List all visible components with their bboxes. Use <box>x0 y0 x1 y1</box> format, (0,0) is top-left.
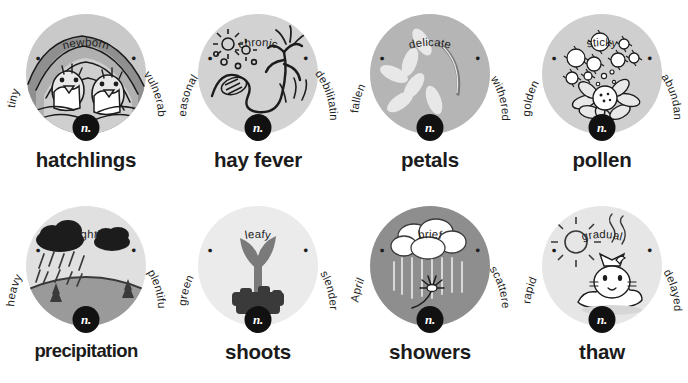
part-of-speech-label: n. <box>253 121 263 134</box>
part-of-speech-label: n. <box>425 313 435 326</box>
adjective-label: golden <box>520 78 541 117</box>
headword-label: shoots <box>172 340 344 364</box>
adjective-label: heavy <box>4 272 24 307</box>
part-of-speech-label: n. <box>253 313 263 326</box>
part-of-speech-badge: n. <box>73 114 100 141</box>
headword-label: showers <box>344 340 516 364</box>
adjective-label: seasonal <box>169 0 200 117</box>
headword-label: thaw <box>516 340 688 364</box>
part-of-speech-label: n. <box>81 313 91 326</box>
dictionary-entry-hatchlings[interactable]: tinynewbornvulnerable•• n. hatchlings <box>0 0 172 192</box>
part-of-speech-label: n. <box>597 121 607 134</box>
headword-label: hatchlings <box>0 148 172 172</box>
dictionary-entry-shoots[interactable]: greenleafyslender•• n. shoots <box>172 192 344 383</box>
dictionary-entry-thaw[interactable]: rapidgradualdelayed•• n. thaw <box>516 192 688 383</box>
headword-label: petals <box>344 148 516 172</box>
part-of-speech-badge: n. <box>73 306 100 333</box>
picture-dictionary-grid: tinynewbornvulnerable•• n. hatchlings <box>0 0 688 383</box>
headword-label: precipitation <box>0 340 172 362</box>
adjective-label: April <box>348 275 366 302</box>
adjective-label: fallen <box>348 82 367 114</box>
part-of-speech-badge: n. <box>589 114 616 141</box>
dictionary-entry-pollen[interactable]: goldenstickyabundant•• n. pollen <box>516 0 688 192</box>
headword-label: hay fever <box>172 148 344 172</box>
part-of-speech-badge: n. <box>417 114 444 141</box>
part-of-speech-label: n. <box>597 313 607 326</box>
dictionary-entry-precipitation[interactable]: heavylightplentiful•• n. precipitation <box>0 192 172 383</box>
part-of-speech-badge: n. <box>417 306 444 333</box>
dictionary-entry-petals[interactable]: fallendelicatewithered•• n. petals <box>344 0 516 192</box>
dictionary-entry-showers[interactable]: Aprilbriefscattered•• n. showers <box>344 192 516 383</box>
part-of-speech-label: n. <box>425 121 435 134</box>
adjective-label: slender <box>318 268 340 310</box>
headword-label: pollen <box>516 148 688 172</box>
part-of-speech-badge: n. <box>245 114 272 141</box>
adjective-label: withered <box>488 73 512 121</box>
part-of-speech-label: n. <box>81 121 91 134</box>
adjective-label: delayed <box>662 267 685 311</box>
part-of-speech-badge: n. <box>245 306 272 333</box>
dictionary-entry-hay-fever[interactable]: seasonalchronicdebilitating•• n. hay fev… <box>172 0 344 192</box>
adjective-label: green <box>176 272 196 305</box>
adjective-label: tiny <box>5 87 22 109</box>
part-of-speech-badge: n. <box>589 306 616 333</box>
adjective-label: rapid <box>520 274 539 304</box>
